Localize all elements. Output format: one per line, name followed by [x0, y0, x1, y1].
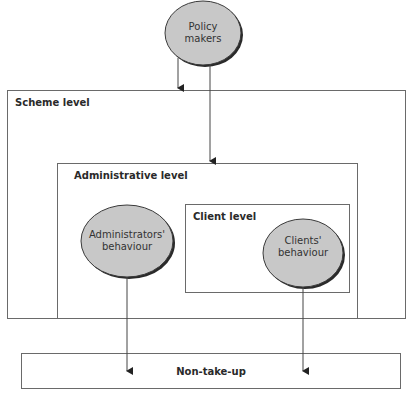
clients-behaviour-label-line1: Clients' [263, 235, 343, 247]
clients-behaviour-label: Clients' behaviour [263, 235, 343, 259]
non-take-up-label: Non-take-up [21, 366, 401, 377]
policy-makers-label: Policy makers [165, 21, 241, 45]
diagram-connectors [0, 0, 411, 397]
administrators-behaviour-label-line1: Administrators' [81, 229, 173, 241]
administrators-behaviour-label-line2: behaviour [81, 241, 173, 253]
policy-makers-label-line1: Policy [165, 21, 241, 33]
administrators-behaviour-label: Administrators' behaviour [81, 229, 173, 253]
policy-makers-label-line2: makers [165, 33, 241, 45]
clients-behaviour-label-line2: behaviour [263, 247, 343, 259]
